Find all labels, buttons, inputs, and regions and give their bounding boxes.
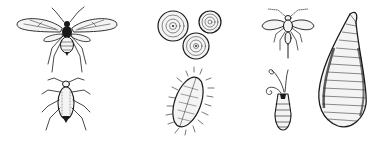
scale-large bbox=[158, 11, 188, 41]
round-scale-cluster-icon bbox=[156, 6, 228, 62]
male-scale-illustration bbox=[264, 64, 300, 136]
oyster-scale-illustration bbox=[312, 8, 372, 132]
mealybug-icon bbox=[160, 66, 216, 136]
mealybug-illustration bbox=[160, 66, 216, 136]
scale-right bbox=[199, 11, 221, 33]
wingless-aphid-illustration bbox=[36, 76, 96, 132]
wingless-insect-icon bbox=[36, 76, 96, 132]
oyster-scale-icon bbox=[312, 8, 372, 132]
winged-aphid-illustration bbox=[12, 4, 124, 74]
whitefly-illustration bbox=[258, 6, 318, 60]
scale-bottom bbox=[183, 33, 209, 59]
antennae-insect-icon bbox=[264, 64, 300, 136]
winged-insect-icon bbox=[12, 4, 124, 74]
round-scales-illustration bbox=[156, 6, 228, 62]
small-winged-insect-icon bbox=[258, 6, 318, 60]
